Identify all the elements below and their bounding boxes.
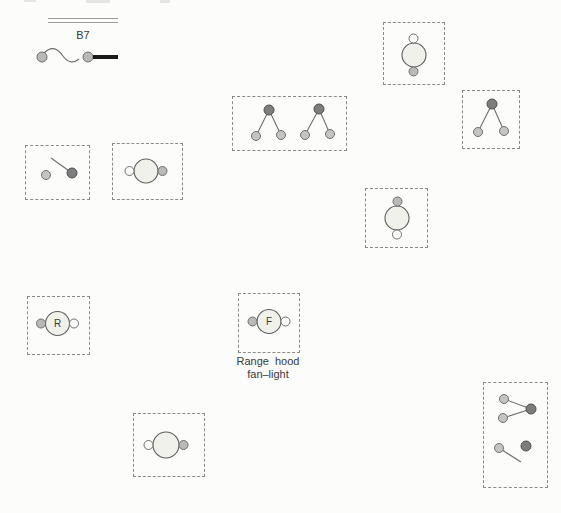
cord-end-node xyxy=(37,52,47,62)
device-box-lamp-left xyxy=(112,143,183,200)
white-terminal xyxy=(144,441,153,450)
light-node xyxy=(474,128,483,137)
gray-terminal xyxy=(158,167,167,176)
range-hood-caption: Range hood fan–light xyxy=(213,355,323,381)
gray-terminal xyxy=(179,441,188,450)
white-terminal xyxy=(281,317,290,326)
junction-group-symbol xyxy=(484,383,547,487)
light-node xyxy=(277,131,286,140)
light-node xyxy=(42,171,51,180)
device-box-receptacle-r: R xyxy=(27,296,90,355)
light-node xyxy=(500,395,509,404)
dark-node xyxy=(67,168,77,178)
device-box-switch-left xyxy=(25,145,90,200)
lamp-fixture-symbol xyxy=(134,414,204,476)
open-switch-symbol xyxy=(26,146,89,199)
white-terminal xyxy=(70,319,79,328)
white-terminal xyxy=(409,34,418,43)
lamp-fixture-symbol xyxy=(113,144,182,199)
cable-label: B7 xyxy=(48,29,118,41)
lettered-fixture-symbol: R xyxy=(28,297,89,354)
device-box-lamp-drop-right xyxy=(462,90,520,149)
device-box-junction-group xyxy=(483,382,548,488)
fixture-letter-r: R xyxy=(54,318,61,329)
lamp-body xyxy=(134,159,158,183)
light-node xyxy=(495,444,504,453)
light-node xyxy=(301,131,310,140)
dark-node xyxy=(314,104,324,114)
cropped-text-remnant xyxy=(24,0,36,2)
cropped-text-remnant xyxy=(160,0,170,3)
two-lamp-drop-symbol xyxy=(463,91,519,148)
dark-node xyxy=(521,441,531,451)
cord-squiggle xyxy=(44,49,79,62)
gray-terminal xyxy=(37,319,46,328)
cord-connector-symbol xyxy=(34,46,124,68)
dark-node xyxy=(526,404,536,414)
device-box-lamp-bottom xyxy=(133,413,205,477)
device-box-fan-f: F xyxy=(238,293,300,353)
gray-terminal xyxy=(409,67,418,76)
lamp-body xyxy=(385,206,409,230)
gray-terminal xyxy=(248,317,257,326)
caption-line-2: fan–light xyxy=(213,368,323,381)
dark-node xyxy=(264,105,274,115)
lettered-fixture-symbol: F xyxy=(239,294,299,352)
lamp-fixture-symbol xyxy=(366,189,427,247)
caption-line-1: Range hood xyxy=(213,355,323,368)
device-box-lamp-top xyxy=(383,22,445,85)
light-node xyxy=(500,127,509,136)
dark-node xyxy=(487,99,497,109)
lamp-fixture-symbol xyxy=(384,23,444,84)
light-node xyxy=(499,414,508,423)
gray-terminal xyxy=(393,197,402,206)
wiring-diagram-page: B7 xyxy=(0,0,561,513)
cropped-text-remnant xyxy=(86,0,110,3)
white-terminal xyxy=(125,167,134,176)
device-box-double-lamp-drop xyxy=(232,96,347,151)
light-node xyxy=(326,130,335,139)
light-node xyxy=(252,132,261,141)
white-terminal xyxy=(393,230,402,239)
fixture-letter-f: F xyxy=(266,316,272,327)
device-box-lamp-middle xyxy=(365,188,428,248)
lamp-body xyxy=(402,43,426,67)
double-two-lamp-drop-symbol xyxy=(233,97,346,150)
cord-end-node xyxy=(83,52,93,62)
lamp-body xyxy=(153,432,179,458)
cable-run-symbol xyxy=(48,18,118,23)
